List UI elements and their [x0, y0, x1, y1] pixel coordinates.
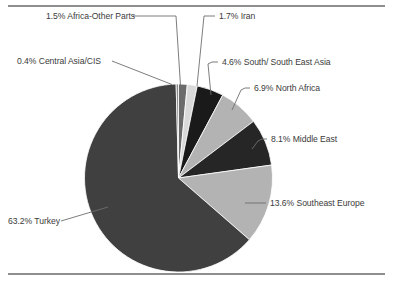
- label-southeast-europe: 13.6% Southeast Europe: [270, 198, 364, 208]
- pie-slice-group: [85, 84, 273, 272]
- leader-line-iran: [197, 16, 215, 86]
- label-central-asia-cis: 0.4% Central Asia/CIS: [17, 56, 101, 66]
- label-turkey: 63.2% Turkey: [8, 216, 60, 226]
- pie-chart-figure: 1.5% Africa-Other Parts 1.7% Iran 0.4% C…: [0, 0, 393, 287]
- label-middle-east: 8.1% Middle East: [271, 134, 337, 144]
- label-iran: 1.7% Iran: [219, 11, 255, 21]
- label-north-africa: 6.9% North Africa: [254, 83, 320, 93]
- leader-line-africa-other: [133, 16, 181, 86]
- leader-line-central-asia: [112, 61, 172, 85]
- label-africa-other-parts: 1.5% Africa-Other Parts: [46, 11, 135, 21]
- label-south-south-east-asia: 4.6% South/ South East Asia: [222, 57, 331, 67]
